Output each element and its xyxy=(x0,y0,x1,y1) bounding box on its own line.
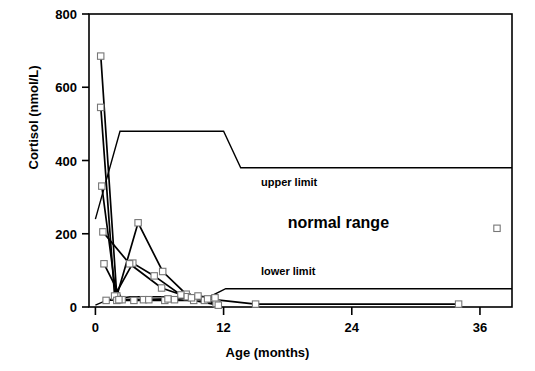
plot-frame xyxy=(89,14,512,307)
data-point-marker xyxy=(171,297,177,303)
data-point-marker xyxy=(99,183,105,189)
annotation-normal-range: normal range xyxy=(288,214,389,231)
y-axis-title: Cortisol (nmol/L) xyxy=(26,33,41,203)
chart-annotations: upper limitnormal rangelower limit xyxy=(261,176,389,277)
x-axis-ticks: 0122436 xyxy=(92,307,487,335)
x-tick-label: 36 xyxy=(473,320,487,335)
cortisol-age-chart: 0200400600800 0122436 upper limitnormal … xyxy=(0,0,535,371)
annotation-upper-limit: upper limit xyxy=(261,176,318,188)
data-point-marker xyxy=(178,292,184,298)
series-line-patient-1 xyxy=(101,56,217,304)
data-point-marker xyxy=(101,261,107,267)
data-point-marker xyxy=(195,293,201,299)
data-point-marker xyxy=(135,220,141,226)
y-axis-ticks: 0200400600800 xyxy=(55,7,89,315)
data-point-marker xyxy=(212,295,218,301)
annotation-lower-limit: lower limit xyxy=(261,265,316,277)
x-axis-title: Age (months) xyxy=(0,345,535,360)
isolated-data-point-marker xyxy=(494,225,500,231)
data-point-marker xyxy=(146,297,152,303)
data-point-marker xyxy=(204,296,210,302)
data-point-marker xyxy=(98,53,104,59)
x-tick-label: 12 xyxy=(216,320,230,335)
data-point-marker xyxy=(215,302,221,308)
data-point-marker xyxy=(165,296,171,302)
y-tick-label: 200 xyxy=(55,227,77,242)
y-tick-label: 800 xyxy=(55,7,77,22)
data-point-marker xyxy=(116,297,122,303)
isolated-data-markers xyxy=(494,225,500,231)
y-tick-label: 0 xyxy=(70,300,77,315)
x-tick-label: 0 xyxy=(92,320,99,335)
data-point-marker xyxy=(188,295,194,301)
data-point-marker xyxy=(151,273,157,279)
data-point-marker xyxy=(252,301,258,307)
data-point-marker xyxy=(103,297,109,303)
x-tick-label: 24 xyxy=(345,320,360,335)
y-tick-label: 400 xyxy=(55,154,77,169)
data-point-marker xyxy=(455,301,461,307)
data-point-marker xyxy=(158,285,164,291)
data-point-marker xyxy=(98,104,104,110)
data-point-marker xyxy=(100,229,106,235)
data-point-marker xyxy=(160,268,166,274)
y-tick-label: 600 xyxy=(55,80,77,95)
data-point-marker xyxy=(131,297,137,303)
data-point-marker xyxy=(126,261,132,267)
chart-canvas: 0200400600800 0122436 upper limitnormal … xyxy=(0,0,535,371)
